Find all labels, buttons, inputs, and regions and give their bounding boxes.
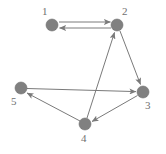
graph-canvas: [0, 0, 166, 154]
edge-5-to-3: [27, 89, 136, 92]
node-label-2: 2: [122, 6, 128, 17]
directed-graph-figure: 1 2 3 4 5: [0, 0, 166, 154]
node-label-4: 4: [81, 133, 87, 144]
nodes-group: [15, 19, 149, 130]
edge-3-to-4: [92, 96, 138, 122]
node-1[interactable]: [46, 19, 58, 31]
edge-4-to-2: [87, 33, 115, 119]
node-2[interactable]: [111, 19, 123, 31]
edges-group: [27, 22, 141, 122]
node-4[interactable]: [79, 118, 91, 130]
node-label-3: 3: [145, 100, 151, 111]
node-label-1: 1: [42, 6, 48, 17]
node-3[interactable]: [137, 86, 149, 98]
node-label-5: 5: [11, 96, 17, 107]
edge-2-to-3: [120, 31, 141, 85]
edge-4-to-5: [27, 93, 80, 121]
node-5[interactable]: [15, 82, 27, 94]
